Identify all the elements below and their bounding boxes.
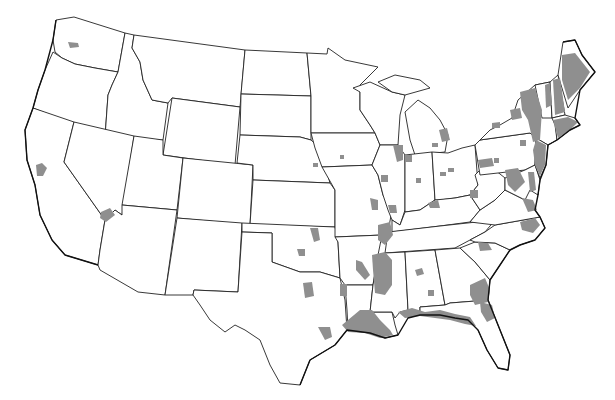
state-iowa (311, 133, 380, 167)
shade-ohio-2 (448, 168, 454, 172)
shade-ohio-east (470, 190, 478, 198)
shade-texas-arkla (340, 284, 347, 296)
state-new-mexico (165, 218, 242, 295)
shade-indiana (416, 178, 421, 183)
state-wyoming (163, 98, 240, 165)
state-colorado (177, 158, 253, 225)
shade-ny-central (492, 122, 500, 128)
shade-indiana-nw (405, 155, 412, 162)
shade-pa-central (494, 158, 499, 163)
shade-pa-ne (520, 140, 526, 146)
state-florida (420, 300, 510, 370)
state-boundaries (25, 17, 595, 385)
state-kansas (250, 180, 335, 227)
shade-michigan-central (432, 143, 438, 147)
state-north-dakota (241, 50, 311, 96)
shade-illinois-central (381, 175, 388, 182)
shade-iowa (340, 155, 344, 159)
shade-mississippi-delta (372, 252, 392, 295)
shade-ohio-1 (440, 172, 446, 176)
shade-ny-north (510, 108, 522, 120)
state-south-dakota (240, 94, 311, 140)
us-map (0, 0, 615, 400)
shade-alabama-2 (428, 290, 434, 296)
shade-missouri-1 (313, 163, 318, 167)
